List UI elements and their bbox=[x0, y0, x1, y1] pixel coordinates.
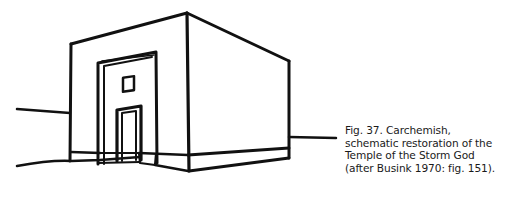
roof-front-edge bbox=[71, 13, 187, 44]
corner-edge bbox=[187, 13, 189, 171]
caption-line: schematic restoration of the bbox=[345, 137, 519, 150]
window bbox=[123, 76, 134, 92]
caption-line: (after Busink 1970: fig. 151). bbox=[345, 162, 519, 175]
caption-line: Temple of the Storm God bbox=[345, 149, 519, 162]
front-wall-left-edge bbox=[70, 44, 71, 161]
figure-caption: Fig. 37. Carchemish, schematic restorati… bbox=[345, 124, 519, 174]
right-horizon-line bbox=[289, 137, 336, 138]
left-horizon-line bbox=[17, 109, 70, 113]
side-plinth-bottom bbox=[189, 158, 289, 171]
caption-line: Fig. 37. Carchemish, bbox=[345, 124, 519, 137]
side-plinth-top bbox=[188, 148, 289, 155]
roof-side-edge bbox=[187, 13, 289, 61]
front-plinth-bottom bbox=[155, 165, 188, 171]
portal-inner bbox=[104, 57, 152, 164]
